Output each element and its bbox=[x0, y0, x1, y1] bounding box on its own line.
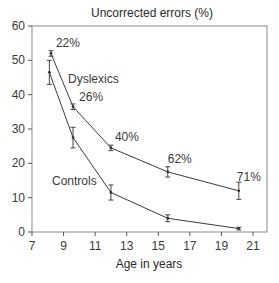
x-tick-label: 21 bbox=[246, 239, 260, 253]
point-label: 62% bbox=[168, 152, 192, 166]
point-label: 40% bbox=[115, 130, 139, 144]
data-point bbox=[108, 185, 113, 200]
y-axis: 0102030405060 bbox=[12, 19, 32, 239]
y-tick-label: 0 bbox=[18, 225, 25, 239]
point-label: 26% bbox=[79, 90, 103, 104]
data-point bbox=[47, 60, 52, 84]
x-tick-label: 11 bbox=[89, 239, 102, 253]
y-tick-label: 40 bbox=[12, 88, 26, 102]
y-tick-label: 50 bbox=[12, 53, 26, 67]
series-line-controls bbox=[49, 72, 238, 228]
x-tick-label: 9 bbox=[60, 239, 67, 253]
point-label: 22% bbox=[56, 36, 80, 50]
series-label-dyslexics: Dyslexics bbox=[68, 72, 119, 86]
y-tick-label: 30 bbox=[12, 122, 26, 136]
x-axis-label: Age in years bbox=[116, 257, 183, 271]
series-label-controls: Controls bbox=[52, 174, 97, 188]
plot-frame bbox=[32, 26, 267, 232]
x-tick-label: 17 bbox=[183, 239, 197, 253]
x-tick-label: 19 bbox=[215, 239, 229, 253]
x-tick-label: 7 bbox=[29, 239, 36, 253]
line-chart: Uncorrected errors (%) 0102030405060 791… bbox=[0, 0, 279, 283]
x-tick-label: 13 bbox=[120, 239, 134, 253]
x-tick-label: 15 bbox=[152, 239, 166, 253]
y-tick-label: 10 bbox=[12, 191, 26, 205]
y-tick-label: 20 bbox=[12, 156, 26, 170]
chart-title: Uncorrected errors (%) bbox=[91, 6, 213, 20]
series-group: 22%26%40%62%71% bbox=[47, 36, 261, 230]
x-axis: 79111315171921 bbox=[29, 232, 260, 253]
y-tick-label: 60 bbox=[12, 19, 26, 33]
data-point bbox=[71, 127, 76, 148]
data-point bbox=[48, 51, 53, 56]
point-label: 71% bbox=[237, 170, 261, 184]
